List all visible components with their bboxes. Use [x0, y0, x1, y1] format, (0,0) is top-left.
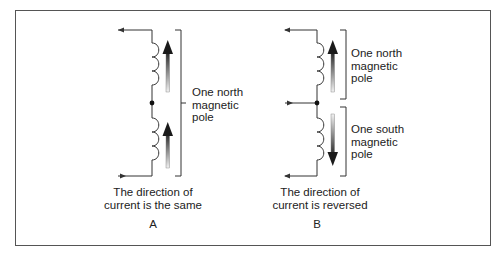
panel-a-upper-coil-icon: [152, 43, 159, 85]
panel-a-bracket: [175, 30, 181, 176]
caption-line: The direction of: [90, 186, 216, 199]
caption-line: current is the same: [90, 199, 216, 212]
label-line: magnetic: [192, 99, 243, 112]
caption-line: The direction of: [260, 186, 380, 199]
panel-b-lower-coil-icon: [317, 118, 324, 160]
label-line: One north: [351, 47, 402, 60]
caption-line: current is reversed: [260, 199, 380, 212]
panel-b-north-pole-label: One north magnetic pole: [351, 47, 402, 85]
panel-b-lower-bracket: [340, 107, 346, 176]
panel-a-bottom-lead: [118, 160, 152, 176]
panel-a-upper-field-arrow-up-icon: [163, 40, 174, 92]
panel-a-top-arrow-left-icon: [118, 28, 124, 33]
panel-b-top-arrow-left-icon: [284, 28, 290, 33]
panel-b-upper-bracket: [340, 30, 346, 99]
panel-a-bottom-arrow-right-icon: [120, 174, 126, 179]
panel-b-south-pole-label: One south magnetic pole: [351, 123, 404, 161]
label-line: pole: [351, 72, 402, 85]
label-line: pole: [351, 148, 404, 161]
panel-b-bottom-arrow-left-icon: [284, 174, 290, 179]
panel-a-lower-coil-icon: [152, 118, 159, 160]
panel-a-junction-dot: [150, 101, 155, 106]
panel-a-caption: The direction of current is the same: [90, 186, 216, 212]
panel-b-caption: The direction of current is reversed: [260, 186, 380, 212]
panel-b-letter: B: [304, 218, 330, 230]
panel-a-north-pole-label: One north magnetic pole: [192, 86, 243, 124]
label-line: One south: [351, 123, 404, 136]
panel-b-lower-field-arrow-down-icon: [328, 114, 339, 166]
panel-b-junction-dot: [315, 101, 320, 106]
label-line: magnetic: [351, 136, 404, 149]
diagram-canvas: [0, 0, 504, 257]
panel-b-center-arrow-right-icon: [287, 101, 293, 106]
panel-b-upper-field-arrow-up-icon: [328, 40, 339, 92]
panel-a-letter: A: [140, 218, 166, 230]
label-line: One north: [192, 86, 243, 99]
label-line: magnetic: [351, 60, 402, 73]
panel-a-lower-field-arrow-up-icon: [163, 122, 174, 168]
panel-b-upper-coil-icon: [317, 43, 324, 85]
label-line: pole: [192, 111, 243, 124]
